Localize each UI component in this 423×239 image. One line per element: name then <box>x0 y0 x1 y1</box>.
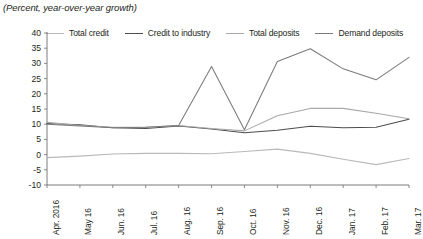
x-axis-tick-label: Sep. 16 <box>215 207 225 235</box>
y-axis-tick-label: -5 <box>17 165 41 175</box>
series-line <box>47 149 409 165</box>
y-axis-tick-label: 25 <box>17 74 41 84</box>
series-line <box>47 49 409 130</box>
x-axis-tick-label: Mar. 17 <box>413 208 423 235</box>
y-axis-tick-label: 35 <box>17 43 41 53</box>
x-axis-tick-label: May 16 <box>83 208 93 235</box>
y-axis-tick-label: 5 <box>17 134 41 144</box>
x-axis-tick-label: Oct. 16 <box>248 209 258 235</box>
y-axis-tick-label: 0 <box>17 150 41 160</box>
y-axis-tick-label: 20 <box>17 89 41 99</box>
x-axis-tick-label: Jan. 17 <box>347 208 357 235</box>
x-axis-tick-label: Jul. 16 <box>149 211 159 235</box>
x-axis-tick-label: Apr. 2016 <box>51 200 61 235</box>
y-axis-tick-label: 15 <box>17 104 41 114</box>
axis-lines <box>47 32 409 185</box>
y-axis-tick-label: -10 <box>17 180 41 190</box>
y-axis-tick-label: 30 <box>17 58 41 68</box>
y-axis-tick-label: 10 <box>17 119 41 129</box>
series-line <box>47 119 409 132</box>
x-axis-tick-label: Dec. 16 <box>314 207 324 235</box>
x-axis-tick-label: Nov. 16 <box>281 207 291 235</box>
y-axis-tick-label: 40 <box>17 28 41 38</box>
x-axis-tick-label: Feb. 17 <box>380 207 390 235</box>
x-axis-tick-label: Jun. 16 <box>116 208 126 235</box>
x-axis-tick-label: Aug. 16 <box>182 207 192 235</box>
series-lines <box>47 49 409 165</box>
